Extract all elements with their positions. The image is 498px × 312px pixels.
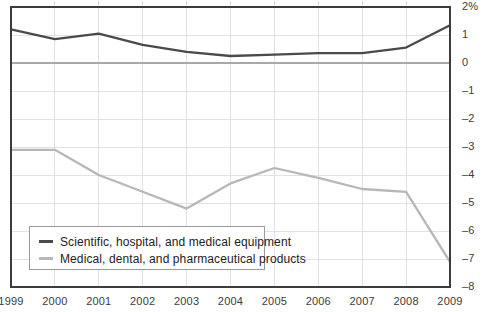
legend-item-scientific: Scientific, hospital, and medical equipm… [39,233,254,250]
chart-legend: Scientific, hospital, and medical equipm… [29,226,265,270]
y-axis-tick-label: 2% [462,0,478,12]
y-axis-tick-label: –6 [462,224,475,236]
x-axis-tick-label: 2009 [428,295,472,307]
y-axis-tick-label: –3 [462,140,475,152]
x-axis-tick-label: 2002 [121,295,165,307]
y-axis-tick-label: –2 [462,112,475,124]
x-axis-tick-label: 2003 [165,295,209,307]
legend-item-medical: Medical, dental, and pharmaceutical prod… [39,250,254,267]
x-axis-tick-label: 2007 [340,295,384,307]
x-axis-tick-label: 2004 [209,295,253,307]
legend-label-scientific: Scientific, hospital, and medical equipm… [60,235,291,249]
y-axis-tick-label: –1 [462,84,475,96]
y-axis-tick-label: –5 [462,196,475,208]
legend-swatch-scientific [39,240,53,243]
x-axis-tick-label: 2008 [384,295,428,307]
legend-label-medical: Medical, dental, and pharmaceutical prod… [60,252,306,266]
x-axis-tick-label: 2006 [296,295,340,307]
legend-swatch-medical [39,257,53,260]
y-axis-tick-label: –4 [462,168,475,180]
x-axis-tick-label: 2001 [77,295,121,307]
y-axis-tick-label: 0 [462,56,468,68]
y-axis-tick-label: –7 [462,252,475,264]
y-axis-tick-label: –8 [462,280,475,292]
line-chart: 2%10–1–2–3–4–5–6–7–8 1999200020012002200… [0,0,498,312]
top-tick-marks [55,1,406,5]
x-axis-tick-label: 2000 [33,295,77,307]
x-axis-tick-label: 2005 [252,295,296,307]
y-axis-tick-label: 1 [462,28,468,40]
x-axis-tick-label: 1999 [0,295,33,307]
